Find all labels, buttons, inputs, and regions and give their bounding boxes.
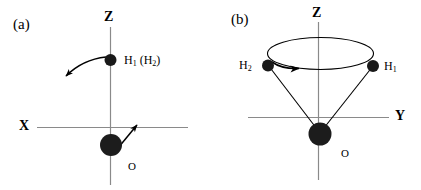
panel-b-rotation-ellipse xyxy=(268,38,374,70)
panel-a-z-axis-label: Z xyxy=(104,10,113,24)
panel-b-hydrogen-2-atom xyxy=(262,60,274,72)
panel-b-hydrogen-2-subscript: 2 xyxy=(248,64,252,73)
panel-a-graphics xyxy=(37,27,188,185)
panel-b-z-axis-label: Z xyxy=(312,6,321,20)
diagram-vector-layer xyxy=(0,0,421,190)
panel-a-hydrogen-atom xyxy=(105,54,117,66)
panel-a-hydrogen-motion-arrow xyxy=(66,57,106,76)
panel-a-hydrogen-label: H1 (H2) xyxy=(124,54,160,68)
panel-b-tag: (b) xyxy=(231,12,249,27)
panel-a-oxygen-label: O xyxy=(128,161,136,172)
panel-b-hydrogen-1-atom xyxy=(367,60,379,72)
panel-b-graphics xyxy=(248,22,389,180)
panel-b-oxygen-label: O xyxy=(341,148,349,159)
panel-b-y-axis-label: Y xyxy=(395,109,405,123)
panel-b-hydrogen-2-label: H2 xyxy=(239,59,252,73)
panel-a-oxygen-atom xyxy=(100,134,122,156)
panel-b-oxygen-atom xyxy=(309,123,332,146)
panel-b-bond-o-h2 xyxy=(268,65,320,133)
panel-a-hydrogen-paren-open: (H xyxy=(140,53,153,67)
figure-canvas: (a) Z X H1 (H2) O (b) Z Y H2 H1 O xyxy=(0,0,421,190)
panel-a-x-axis-label: X xyxy=(19,119,29,133)
panel-b-bond-o-h1 xyxy=(320,66,373,133)
panel-a-hydrogen-paren-close: ) xyxy=(156,53,160,67)
panel-b-hydrogen-1-label: H1 xyxy=(384,60,397,74)
panel-a-hydrogen-symbol: H xyxy=(124,53,133,67)
panel-b-hydrogen-2-symbol: H xyxy=(239,58,248,72)
panel-b-hydrogen-1-subscript: 1 xyxy=(393,65,397,74)
panel-b-hydrogen-1-symbol: H xyxy=(384,59,393,73)
panel-a-tag: (a) xyxy=(13,17,30,32)
